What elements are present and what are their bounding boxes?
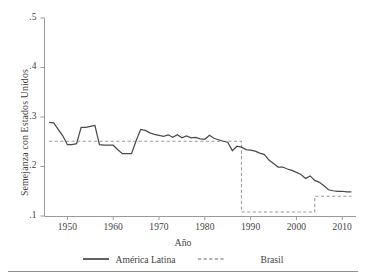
chart-figure: .1.2.3.4.5 1950196019701980199020002010 … xyxy=(0,0,366,279)
legend-label-america-latina: América Latina xyxy=(116,254,176,265)
x-tick-label: 1960 xyxy=(93,222,133,232)
axes xyxy=(41,18,357,220)
series-line-brasil xyxy=(49,141,351,212)
legend-swatch-dashed-icon xyxy=(198,255,224,263)
x-tick-label: 2010 xyxy=(322,222,362,232)
chart-legend: América Latina Brasil xyxy=(0,252,366,266)
x-tick-label: 1950 xyxy=(47,222,87,232)
legend-swatch-solid-icon xyxy=(83,255,109,263)
y-axis-title: Semejanza con Estados Unidos xyxy=(19,69,30,196)
x-tick-label: 1970 xyxy=(139,222,179,232)
y-tick-label: .1 xyxy=(15,210,37,220)
series-line-america-latina xyxy=(49,122,351,191)
x-axis-title: Año xyxy=(0,237,366,248)
x-tick-label: 1990 xyxy=(231,222,271,232)
y-tick-label: .5 xyxy=(15,12,37,22)
legend-entry-america-latina: América Latina xyxy=(83,254,176,265)
legend-entry-brasil: Brasil xyxy=(198,254,284,265)
x-tick-label: 2000 xyxy=(276,222,316,232)
x-tick-label: 1980 xyxy=(185,222,225,232)
y-tick-marks xyxy=(41,18,45,216)
legend-label-brasil: Brasil xyxy=(261,254,284,265)
data-series-group xyxy=(49,122,351,212)
footer-rule xyxy=(8,271,358,272)
